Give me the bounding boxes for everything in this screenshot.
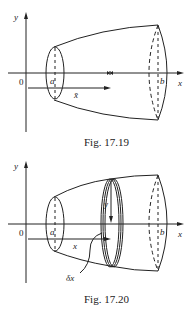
- caption-17-19: Fig. 17.19: [84, 136, 129, 148]
- label-x: x: [177, 78, 182, 88]
- x-axis-arrow-icon: [177, 222, 184, 226]
- slice-diagram: y x 0 a b x y δx: [0, 155, 191, 290]
- label-delta-x: δx: [66, 273, 74, 283]
- y-axis-arrow-icon: [24, 161, 28, 168]
- label-y: y: [103, 199, 108, 209]
- label-origin: 0: [19, 228, 24, 238]
- label-y-axis: y: [13, 161, 18, 171]
- figure-17-20: y x 0 a b x y δx Fig. 17.20: [0, 155, 191, 313]
- upper-curve: [54, 25, 158, 47]
- label-x-axis: x: [177, 229, 182, 239]
- y-axis-arrow-icon: [24, 12, 28, 19]
- solid-of-revolution-diagram: y x 0 a b x̄: [0, 0, 191, 135]
- ellipse-b-back: [149, 175, 158, 271]
- caption-17-20: Fig. 17.20: [84, 293, 129, 305]
- x-axis-arrow-icon: [177, 71, 184, 75]
- slice-disc-inner: [103, 179, 121, 267]
- label-origin: 0: [19, 77, 24, 87]
- upper-curve: [54, 175, 158, 197]
- ellipse-b-front: [158, 175, 167, 271]
- label-a: a: [50, 76, 55, 86]
- label-b: b: [160, 76, 165, 86]
- figure-17-19: y x 0 a b x̄ Fig. 17.19: [0, 0, 191, 155]
- slice-disc-outer: [101, 179, 119, 267]
- label-x: x: [72, 241, 77, 251]
- label-b: b: [160, 227, 165, 237]
- label-y: y: [13, 12, 18, 22]
- lower-curve: [54, 100, 158, 120]
- label-a: a: [50, 227, 55, 237]
- label-xbar: x̄: [73, 90, 79, 100]
